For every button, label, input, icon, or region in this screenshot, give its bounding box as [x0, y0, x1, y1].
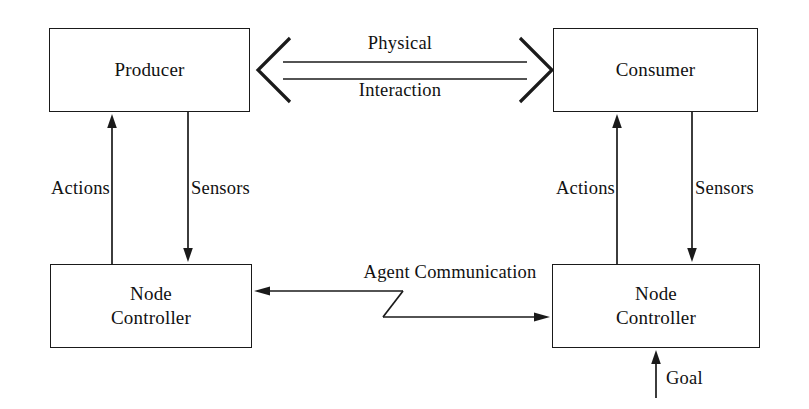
edge-label-interaction: Interaction — [359, 80, 441, 101]
edge-label-actions-left: Actions — [51, 178, 110, 199]
node-controller-right-label-line1: Node — [635, 282, 677, 306]
node-consumer[interactable]: Consumer — [553, 28, 758, 112]
connector-agent-communication — [254, 287, 550, 322]
node-controller-left-label-line2: Controller — [111, 306, 191, 330]
node-producer[interactable]: Producer — [49, 28, 250, 112]
edge-label-sensors-right: Sensors — [695, 178, 754, 199]
edge-label-goal: Goal — [666, 368, 703, 389]
node-producer-label: Producer — [114, 58, 184, 82]
node-node-controller-left[interactable]: Node Controller — [50, 264, 252, 348]
edge-label-actions-right: Actions — [556, 178, 615, 199]
diagram-canvas: Producer Consumer Node Controller Node C… — [0, 0, 809, 409]
edge-label-agent-communication: Agent Communication — [364, 262, 537, 283]
connector-goal — [651, 350, 661, 398]
edge-label-physical: Physical — [368, 33, 432, 54]
node-node-controller-right[interactable]: Node Controller — [552, 264, 760, 348]
node-consumer-label: Consumer — [616, 58, 696, 82]
node-controller-right-label-line2: Controller — [616, 306, 696, 330]
node-controller-left-label-line1: Node — [130, 282, 172, 306]
edge-label-sensors-left: Sensors — [191, 178, 250, 199]
